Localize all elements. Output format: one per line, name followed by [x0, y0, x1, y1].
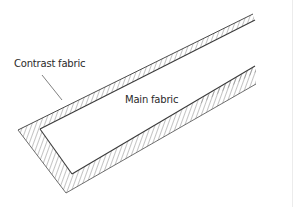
main-fabric-label: Main fabric [125, 94, 178, 105]
contrast-fabric-label: Contrast fabric [14, 58, 85, 69]
diagram-canvas: Contrast fabric Main fabric [0, 0, 295, 207]
contrast-leader-line [42, 75, 62, 100]
page-edge-divider [292, 0, 293, 207]
